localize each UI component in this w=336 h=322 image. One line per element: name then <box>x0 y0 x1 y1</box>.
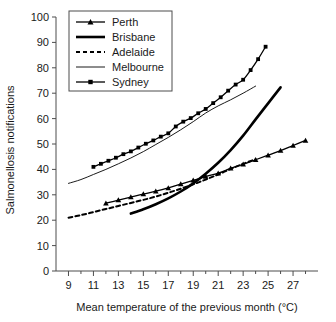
x-tick-label: 27 <box>287 279 299 291</box>
y-tick-label: 30 <box>37 189 49 201</box>
x-tick-label: 21 <box>212 279 224 291</box>
data-point-marker-square <box>144 142 148 146</box>
chart-legend[interactable]: PerthBrisbaneAdelaideMelbourneSydney <box>69 11 172 91</box>
data-point-marker-square <box>211 101 215 105</box>
data-point-marker-square <box>256 57 260 61</box>
data-point-marker-square <box>174 125 178 129</box>
chart-figure: 0102030405060708090100 91113151719212325… <box>0 0 336 322</box>
data-point-marker-square <box>121 152 125 156</box>
data-point-marker-square <box>92 165 96 169</box>
y-tick-label: 90 <box>37 36 49 48</box>
data-point-marker-square <box>204 107 208 111</box>
data-point-marker-square <box>166 131 170 135</box>
x-tick-label: 19 <box>187 279 199 291</box>
x-tick-label: 23 <box>237 279 249 291</box>
y-axis-title: Salmonellosis notifications <box>4 85 16 215</box>
legend-label: Brisbane <box>112 31 155 43</box>
y-tick-label: 20 <box>37 214 49 226</box>
x-tick-label: 11 <box>88 279 99 291</box>
y-tick-label: 100 <box>31 11 49 23</box>
legend-label: Perth <box>112 16 138 28</box>
data-point-marker-square <box>226 89 230 93</box>
x-axis-title: Mean temperature of the previous month (… <box>76 301 297 313</box>
x-tick-label: 13 <box>112 279 124 291</box>
y-tick-label: 10 <box>37 240 49 252</box>
data-point-marker-square <box>241 78 245 82</box>
legend-marker-square <box>88 80 92 84</box>
data-point-marker-square <box>219 95 223 99</box>
legend-label: Adelaide <box>112 46 155 58</box>
x-tick-label: 17 <box>162 279 174 291</box>
y-tick-label: 0 <box>43 265 49 277</box>
data-point-marker-square <box>99 162 103 166</box>
data-point-marker-square <box>234 83 238 87</box>
data-point-marker-square <box>264 45 268 49</box>
data-point-marker-square <box>196 111 200 115</box>
data-point-marker-square <box>151 139 155 143</box>
data-point-marker-square <box>136 146 140 150</box>
salmonellosis-temperature-line-chart: 0102030405060708090100 91113151719212325… <box>0 0 336 322</box>
data-point-marker-square <box>189 116 193 120</box>
y-tick-label: 40 <box>37 163 49 175</box>
legend-label: Melbourne <box>112 61 164 73</box>
data-point-marker-square <box>114 156 118 160</box>
x-tick-label: 25 <box>262 279 274 291</box>
data-point-marker-square <box>159 135 163 139</box>
legend-label: Sydney <box>112 76 149 88</box>
data-point-marker-square <box>181 120 185 124</box>
y-tick-label: 50 <box>37 138 49 150</box>
x-tick-label: 15 <box>137 279 149 291</box>
x-tick-label: 9 <box>65 279 71 291</box>
y-tick-label: 70 <box>37 87 49 99</box>
data-point-marker-square <box>129 149 133 153</box>
y-tick-label: 60 <box>37 113 49 125</box>
y-tick-label: 80 <box>37 62 49 74</box>
data-point-marker-square <box>107 159 111 163</box>
data-point-marker-square <box>249 68 253 72</box>
